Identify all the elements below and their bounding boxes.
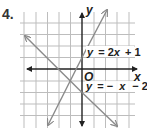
grid — [20, 12, 135, 128]
origin-label: O — [84, 70, 94, 84]
y-axis-label: y — [85, 3, 94, 17]
axes — [27, 13, 137, 126]
coordinate-graph: y = 2x + 1 y = − x − 2 y x O — [0, 0, 147, 132]
eq1-label: y = 2x + 1 — [86, 46, 141, 58]
x-axis-label: x — [133, 70, 142, 84]
